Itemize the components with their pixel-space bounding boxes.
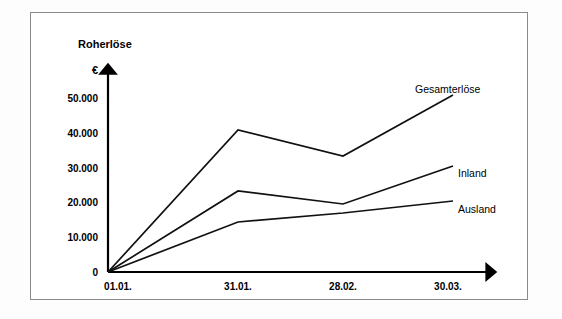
- y-tick-label-20000: 20.000: [67, 197, 98, 208]
- series-label-inland: Inland: [458, 167, 487, 179]
- x-tick-label-31-01: 31.01.: [224, 281, 252, 292]
- y-axis-unit-label: €: [92, 64, 98, 76]
- chart-title: Roherlöse: [78, 38, 132, 50]
- line-chart-canvas: Roherlöse € 50.000 40.000 30.000 20.000 …: [0, 0, 562, 319]
- y-tick-label-10000: 10.000: [67, 232, 98, 243]
- y-tick-label-50000: 50.000: [67, 93, 98, 104]
- series-line-ausland: [108, 201, 453, 272]
- series-label-gesamterloese: Gesamterlöse: [415, 83, 481, 95]
- x-tick-label-30-03: 30.03.: [434, 281, 462, 292]
- chart-figure: Roherlöse € 50.000 40.000 30.000 20.000 …: [0, 0, 562, 319]
- x-tick-label-28-02: 28.02.: [329, 281, 357, 292]
- x-tick-label-01-01: 01.01.: [104, 281, 132, 292]
- y-tick-label-30000: 30.000: [67, 163, 98, 174]
- y-tick-label-40000: 40.000: [67, 128, 98, 139]
- series-label-ausland: Ausland: [458, 203, 496, 215]
- y-tick-label-0: 0: [92, 267, 98, 278]
